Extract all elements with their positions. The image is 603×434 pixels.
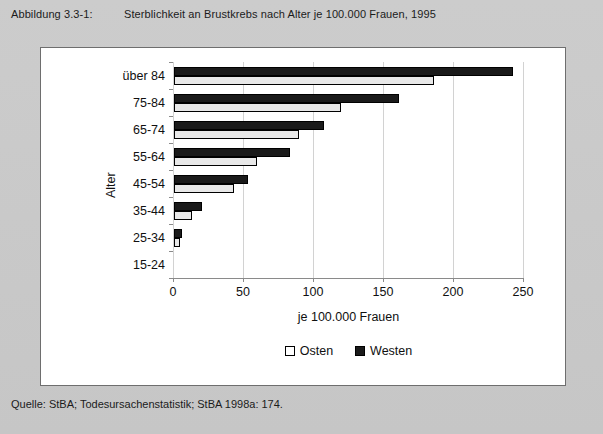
legend-swatch-westen-icon: [355, 346, 365, 356]
x-tick: [383, 278, 384, 282]
bar-osten: [174, 76, 434, 85]
legend-label: Osten: [300, 344, 333, 358]
y-tick: [169, 62, 173, 63]
y-category-label: 65-74: [133, 124, 165, 137]
chart-category-row: über 84: [173, 62, 524, 89]
bar-osten: [174, 157, 257, 166]
chart-category-row: 65-74: [173, 116, 524, 143]
x-axis-title: je 100.000 Frauen: [173, 310, 524, 324]
x-tick-label: 100: [303, 285, 324, 299]
chart-category-row: 25-34: [173, 224, 524, 251]
bar-westen: [174, 148, 290, 157]
y-tick: [169, 89, 173, 90]
y-tick: [169, 251, 173, 252]
legend-swatch-osten-icon: [285, 346, 295, 356]
y-category-label: 25-34: [133, 232, 165, 245]
bar-osten: [174, 211, 192, 220]
bar-westen: [174, 202, 202, 211]
bar-osten: [174, 103, 341, 112]
chart-category-row: 35-44: [173, 197, 524, 224]
y-category-label: über 84: [123, 70, 165, 83]
legend-item: Westen: [355, 344, 412, 358]
x-tick-label: 0: [170, 285, 177, 299]
y-category-label: 45-54: [133, 178, 165, 191]
bar-westen: [174, 67, 513, 76]
x-tick-label: 50: [236, 285, 250, 299]
y-axis-title: Alter: [104, 172, 118, 198]
y-tick: [169, 278, 173, 279]
bar-westen: [174, 121, 324, 130]
bar-osten: [174, 130, 299, 139]
y-tick: [169, 143, 173, 144]
scanned-page: Abbildung 3.3-1: Sterblichkeit an Brustk…: [0, 0, 603, 434]
figure-caption-bar: Abbildung 3.3-1: Sterblichkeit an Brustk…: [0, 8, 603, 38]
x-axis-line: [173, 278, 524, 279]
bar-osten: [174, 184, 234, 193]
chart-category-row: 55-64: [173, 143, 524, 170]
x-tick: [523, 278, 524, 282]
chart-legend: OstenWesten: [173, 344, 524, 358]
y-tick: [169, 224, 173, 225]
bar-osten: [174, 238, 180, 247]
y-tick: [169, 116, 173, 117]
y-category-label: 75-84: [133, 97, 165, 110]
x-tick-label: 200: [443, 285, 464, 299]
bar-westen: [174, 229, 182, 238]
bar-westen: [174, 94, 399, 103]
figure-title: Sterblichkeit an Brustkrebs nach Alter j…: [124, 8, 436, 20]
y-tick: [169, 170, 173, 171]
x-tick-label: 150: [373, 285, 394, 299]
chart-category-row: 15-24: [173, 251, 524, 278]
chart-category-row: 75-84: [173, 89, 524, 116]
y-category-label: 15-24: [133, 259, 165, 272]
x-tick-label: 250: [513, 285, 534, 299]
x-tick: [313, 278, 314, 282]
x-tick: [453, 278, 454, 282]
x-tick: [173, 278, 174, 282]
source-note: Quelle: StBA; Todesursachenstatistik; St…: [11, 398, 283, 410]
chart-panel: 050100150200250über 8475-8465-7455-6445-…: [40, 47, 566, 386]
plot-area: 050100150200250über 8475-8465-7455-6445-…: [173, 62, 524, 278]
legend-item: Osten: [285, 344, 333, 358]
chart-category-row: 45-54: [173, 170, 524, 197]
y-category-label: 55-64: [133, 151, 165, 164]
legend-label: Westen: [370, 344, 412, 358]
y-tick: [169, 197, 173, 198]
bar-westen: [174, 175, 248, 184]
y-category-label: 35-44: [133, 205, 165, 218]
x-tick: [243, 278, 244, 282]
figure-number-label: Abbildung 3.3-1:: [11, 8, 93, 20]
